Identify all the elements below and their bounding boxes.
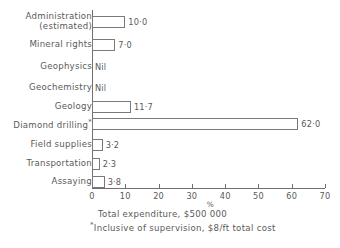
x-tick [292, 184, 293, 188]
category-label-text: Administration [26, 11, 92, 21]
bar-value-label: 7·0 [118, 40, 132, 50]
category-label-text: Geology [55, 101, 92, 111]
bar-value-label: 62·0 [301, 119, 320, 129]
category-label-text: Geochemistry [29, 82, 92, 92]
category-label: Field supplies [0, 140, 92, 150]
bar-value-label: 10·0 [128, 17, 147, 27]
bar [92, 118, 298, 130]
x-tick-label: 50 [246, 191, 270, 201]
x-tick-label: 70 [313, 191, 337, 201]
x-tick-label: 20 [147, 191, 171, 201]
footnote-caption: *Inclusive of supervision, $8/ft total c… [90, 221, 276, 233]
x-tick [159, 184, 160, 188]
x-tick [125, 184, 126, 188]
bar-value-label: 3·8 [108, 177, 122, 187]
x-tick-label: 40 [213, 191, 237, 201]
category-label: Diamond drilling* [0, 119, 92, 130]
x-tick [225, 184, 226, 188]
category-label: Assaying [0, 177, 92, 187]
x-tick [192, 184, 193, 188]
category-label-text: Mineral rights [29, 39, 92, 49]
bar-value-label: 3·2 [106, 140, 120, 150]
total-expenditure-caption: Total expenditure, $500 000 [98, 209, 227, 219]
x-tick-label: 60 [280, 191, 304, 201]
bar-value-label: 11·7 [134, 102, 153, 112]
category-label: Geology [0, 102, 92, 112]
bar [92, 39, 115, 51]
category-label: Administration(estimated) [0, 12, 92, 31]
category-label-text: Field supplies [31, 139, 92, 149]
category-label: Geochemistry [0, 83, 92, 93]
expenditure-bar-chart: Administration(estimated)Mineral rightsG… [0, 0, 340, 248]
x-tick-label: 10 [113, 191, 137, 201]
x-axis-line [92, 188, 325, 189]
footnote-text: Inclusive of supervision, $8/ft total co… [94, 223, 276, 233]
bar [92, 176, 105, 188]
category-label: Mineral rights [0, 40, 92, 50]
x-tick-label: 30 [180, 191, 204, 201]
category-label-subtext: (estimated) [0, 22, 92, 32]
bar [92, 16, 125, 28]
category-label: Geophysics [0, 62, 92, 72]
nil-value-label: Nil [95, 83, 106, 93]
nil-value-label: Nil [95, 62, 106, 72]
category-label-text: Transportation [26, 158, 92, 168]
bar [92, 139, 103, 151]
category-label: Transportation [0, 159, 92, 169]
category-label-text: Diamond drilling [13, 120, 88, 130]
x-tick [258, 184, 259, 188]
category-label-text: Assaying [52, 176, 92, 186]
bar [92, 101, 131, 113]
bar [92, 158, 100, 170]
bar-value-label: 2·3 [103, 159, 117, 169]
x-tick [325, 184, 326, 188]
axis-unit-symbol: % [207, 200, 214, 209]
x-tick-label: 0 [80, 191, 104, 201]
category-label-text: Geophysics [40, 61, 92, 71]
